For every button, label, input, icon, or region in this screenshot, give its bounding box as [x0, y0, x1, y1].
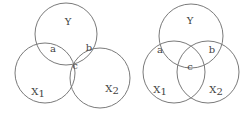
label-a-left: a: [50, 43, 56, 54]
label-b-left: b: [86, 42, 92, 53]
venn-diagrams-canvas: Y a b c X1 X2 Y a b c X1 X2: [0, 0, 248, 115]
venn-right: Y a b c X1 X2: [143, 4, 239, 103]
label-b-right: b: [209, 44, 215, 55]
circle-x1-left: [15, 43, 75, 103]
label-y-left: Y: [64, 16, 72, 27]
label-x1-right: X1: [153, 84, 167, 97]
venn-left: Y a b c X1 X2: [15, 3, 130, 108]
circle-x2-left: [70, 48, 130, 108]
label-c-left: c: [72, 60, 78, 71]
label-y-right: Y: [186, 15, 194, 26]
label-x1-left: X1: [31, 86, 45, 99]
label-x2-left: X2: [105, 83, 119, 96]
label-x2-right: X2: [209, 84, 223, 97]
label-c-right: c: [187, 61, 193, 72]
label-a-right: a: [157, 44, 163, 55]
circle-y-left: [35, 3, 97, 65]
